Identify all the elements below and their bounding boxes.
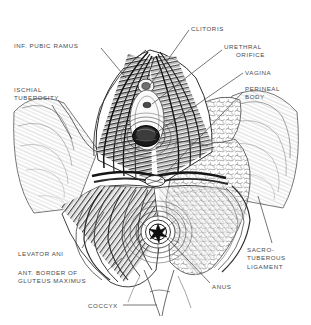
label-perineal-body-line-1: PERINEAL [245,85,280,93]
label-inf-pubic-ramus: INF. PUBIC RAMUS [14,42,79,50]
label-coccyx: COCCYX [88,302,118,310]
urethral-orifice-structure [143,102,151,108]
label-ant-border-gluteus-maximus: ANT. BORDER OFGLUTEUS MAXIMUS [18,269,86,286]
label-levator-ani-line-1: LEVATOR ANI [18,250,64,258]
label-ant-border-gluteus-maximus-line-2: GLUTEUS MAXIMUS [18,277,86,285]
label-ischial-tuberosity: ISCHIALTUBEROSITY [14,86,59,103]
label-sacro-tuberous-ligament: SACRO-TUBEROUSLIGAMENT [247,246,286,271]
label-coccyx-line-1: COCCYX [88,302,118,310]
label-ischial-tuberosity-line-1: ISCHIAL [14,86,59,94]
label-sacro-tuberous-ligament-line-1: SACRO- [247,246,286,254]
label-anus-line-1: ANUS [212,283,231,291]
label-anus: ANUS [212,283,231,291]
label-ant-border-gluteus-maximus-line-1: ANT. BORDER OF [18,269,86,277]
label-urethral-orifice: URETHRALORIFICE [224,43,265,60]
label-levator-ani: LEVATOR ANI [18,250,64,258]
label-vagina: VAGINA [245,69,271,77]
label-urethral-orifice-line-1: URETHRAL [224,43,265,51]
label-clitoris: CLITORIS [191,25,224,33]
label-ischial-tuberosity-line-2: TUBEROSITY [14,94,59,102]
label-vagina-line-1: VAGINA [245,69,271,77]
label-sacro-tuberous-ligament-line-2: TUBEROUS [247,254,286,262]
label-sacro-tuberous-ligament-line-3: LIGAMENT [247,263,286,271]
label-clitoris-line-1: CLITORIS [191,25,224,33]
label-urethral-orifice-line-2: ORIFICE [224,51,265,59]
label-inf-pubic-ramus-line-1: INF. PUBIC RAMUS [14,42,79,50]
label-perineal-body-line-2: BODY [245,93,280,101]
label-perineal-body: PERINEALBODY [245,85,280,102]
